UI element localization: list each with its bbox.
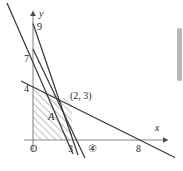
- x-tick-label-8: 8: [136, 143, 141, 154]
- vertical-scrollbar-thumb[interactable]: [177, 28, 182, 81]
- screenshot-root: 9 7 4 3 8 O x y (2, 3) A ④: [0, 0, 183, 171]
- line-four-id-label: ④: [88, 143, 97, 154]
- intersection-point-label: (2, 3): [70, 90, 92, 102]
- x-tick-label-3: 3: [68, 143, 73, 154]
- vertical-scrollbar-track[interactable]: [175, 0, 183, 171]
- y-tick-label-9: 9: [37, 21, 42, 32]
- x-axis-label: x: [154, 122, 160, 133]
- origin-label: O: [30, 143, 37, 154]
- x-axis-arrow-icon: [163, 137, 169, 143]
- y-tick-label-4: 4: [24, 83, 29, 94]
- feasible-region-label: A: [47, 111, 55, 122]
- graph-canvas: 9 7 4 3 8 O x y (2, 3) A ④: [0, 0, 183, 171]
- y-tick-label-7: 7: [24, 53, 29, 64]
- feasible-region-graph: 9 7 4 3 8 O x y (2, 3) A ④: [0, 0, 183, 171]
- y-axis-label: y: [38, 8, 44, 19]
- y-axis-arrow-icon: [30, 11, 36, 17]
